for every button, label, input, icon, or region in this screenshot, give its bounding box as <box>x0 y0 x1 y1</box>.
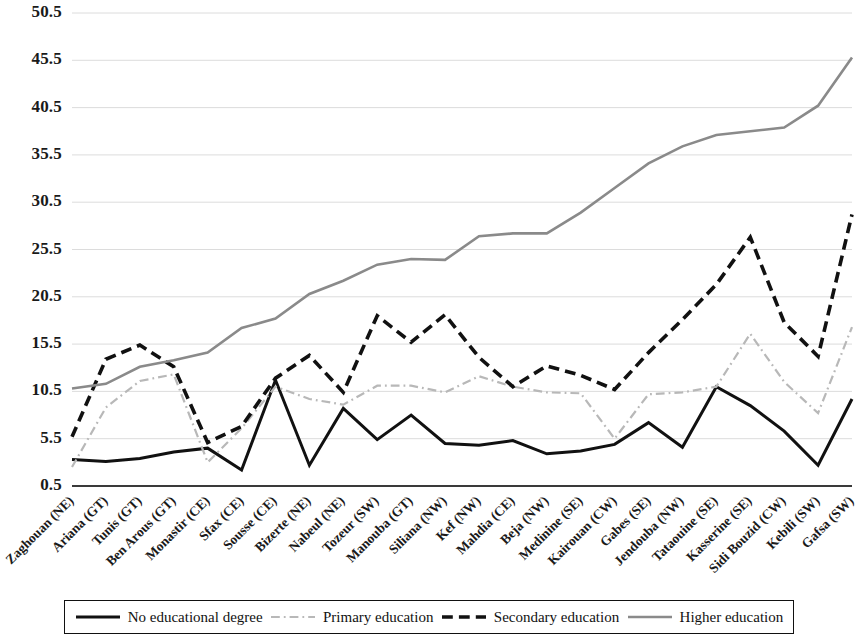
series-line-no-educational-degree <box>72 380 852 470</box>
line-chart: 50.545.540.535.530.525.520.515.510.55.50… <box>0 0 859 642</box>
legend-item[interactable]: Secondary education <box>441 609 619 626</box>
dashdot-gray-line-icon <box>270 611 316 623</box>
solid-gray-line-icon <box>627 611 673 623</box>
legend-label: Higher education <box>680 609 784 626</box>
legend-item[interactable]: No educational degree <box>75 609 263 626</box>
legend-label: No educational degree <box>128 609 263 626</box>
legend-label: Secondary education <box>494 609 619 626</box>
solid-black-line-icon <box>75 611 121 623</box>
dashed-black-line-icon <box>441 611 487 623</box>
legend-item[interactable]: Primary education <box>270 609 433 626</box>
legend-label: Primary education <box>323 609 433 626</box>
chart-legend: No educational degreePrimary educationSe… <box>64 600 794 634</box>
legend-item[interactable]: Higher education <box>627 609 784 626</box>
